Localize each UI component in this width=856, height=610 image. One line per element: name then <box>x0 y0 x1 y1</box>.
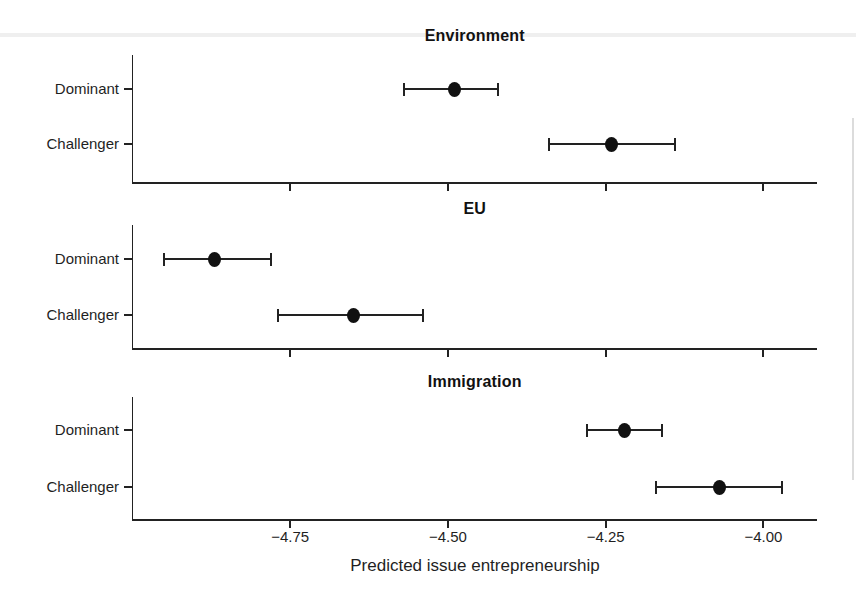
x-axis-tick <box>447 184 449 191</box>
panel-title: Environment <box>275 27 675 45</box>
ci-cap-low <box>277 309 279 322</box>
x-axis-tick <box>605 184 607 191</box>
category-tick <box>124 314 132 316</box>
category-tick <box>124 143 132 145</box>
panel-title: EU <box>275 200 675 218</box>
figure-canvas: EnvironmentDominantChallengerEUDominantC… <box>0 0 856 610</box>
ci-cap-high <box>661 424 663 437</box>
x-axis-tick <box>605 350 607 357</box>
x-axis-tick-label: −4.25 <box>571 528 641 545</box>
ci-cap-low <box>586 424 588 437</box>
x-axis-tick <box>762 350 764 357</box>
x-axis-tick <box>447 521 449 528</box>
x-axis-tick-label: −4.75 <box>255 528 325 545</box>
estimate-point <box>713 480 726 495</box>
x-axis-tick-label: −4.00 <box>728 528 798 545</box>
category-label: Challenger <box>0 306 119 323</box>
x-axis-tick <box>447 350 449 357</box>
y-axis-line <box>132 225 134 348</box>
ci-cap-high <box>674 138 676 151</box>
x-axis-line <box>132 519 818 521</box>
category-tick <box>124 429 132 431</box>
estimate-point <box>605 137 618 152</box>
y-axis-line <box>132 397 134 519</box>
ci-cap-low <box>163 253 165 266</box>
category-tick <box>124 258 132 260</box>
panel-title: Immigration <box>275 373 675 391</box>
scan-edge-artifact <box>852 118 854 480</box>
y-axis-line <box>132 55 134 182</box>
category-label: Dominant <box>0 80 119 97</box>
ci-cap-low <box>548 138 550 151</box>
ci-cap-high <box>497 83 499 96</box>
x-axis-tick <box>289 521 291 528</box>
x-axis-tick <box>762 521 764 528</box>
estimate-point <box>618 423 631 438</box>
x-axis-line <box>132 182 818 184</box>
ci-cap-high <box>781 481 783 494</box>
estimate-point <box>208 252 221 267</box>
estimate-point <box>347 308 360 323</box>
category-tick <box>124 486 132 488</box>
category-tick <box>124 88 132 90</box>
estimate-point <box>448 82 461 97</box>
x-axis-tick <box>289 184 291 191</box>
category-label: Challenger <box>0 135 119 152</box>
ci-cap-low <box>655 481 657 494</box>
x-axis-tick <box>762 184 764 191</box>
x-axis-tick <box>605 521 607 528</box>
category-label: Challenger <box>0 478 119 495</box>
ci-cap-low <box>403 83 405 96</box>
x-axis-line <box>132 348 818 350</box>
x-axis-tick <box>289 350 291 357</box>
ci-cap-high <box>270 253 272 266</box>
ci-cap-high <box>422 309 424 322</box>
x-axis-title: Predicted issue entrepreneurship <box>175 556 775 576</box>
category-label: Dominant <box>0 421 119 438</box>
x-axis-tick-label: −4.50 <box>413 528 483 545</box>
category-label: Dominant <box>0 250 119 267</box>
